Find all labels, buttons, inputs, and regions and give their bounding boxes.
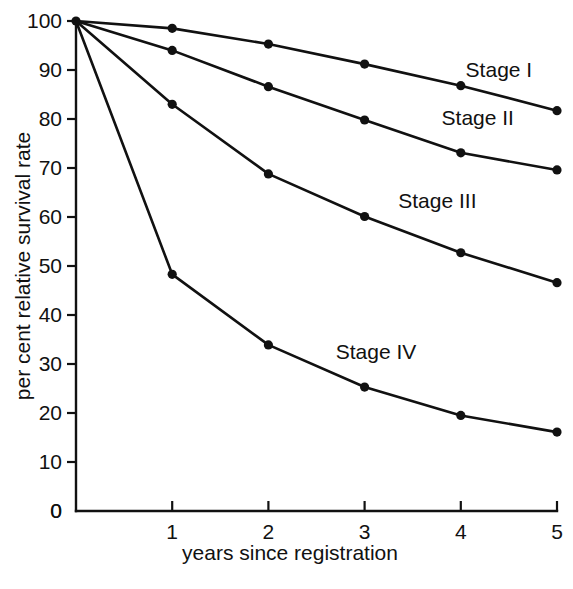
y-tick-label: 30 (39, 352, 62, 375)
origin-data-point (71, 16, 80, 25)
data-point (552, 278, 561, 287)
x-tick-label: 4 (455, 520, 467, 543)
y-axis-title: per cent relative survival rate (11, 132, 34, 400)
data-point (264, 169, 273, 178)
x-axis-title: years since registration (182, 541, 398, 564)
chart-canvas: 0102030405060708090100 012345 Stage ISta… (0, 0, 573, 589)
x-axis-ticks (172, 501, 557, 511)
y-tick-label: 20 (39, 401, 62, 424)
data-point (456, 148, 465, 157)
axes-group: 0102030405060708090100 012345 (27, 9, 563, 543)
data-point (264, 39, 273, 48)
y-tick-label: 90 (39, 58, 62, 81)
data-point (360, 60, 369, 69)
data-point (168, 24, 177, 33)
data-point (552, 428, 561, 437)
data-point (168, 100, 177, 109)
y-tick-label: 50 (39, 254, 62, 277)
y-tick-label: 70 (39, 156, 62, 179)
series-stage-ii (76, 21, 562, 175)
y-tick-label: 80 (39, 107, 62, 130)
series-label-stage-i: Stage I (466, 58, 533, 81)
y-tick-label: 10 (39, 450, 62, 473)
x-tick-label: 3 (359, 520, 371, 543)
data-point (168, 270, 177, 279)
x-tick-label: 2 (263, 520, 275, 543)
data-point (456, 248, 465, 257)
y-axis-ticks (67, 21, 76, 462)
data-point (456, 81, 465, 90)
data-point (360, 212, 369, 221)
x-tick-label: 5 (551, 520, 563, 543)
series-label-stage-ii: Stage II (442, 106, 514, 129)
x-axis-tick-labels: 012345 (50, 499, 563, 543)
data-point (360, 382, 369, 391)
data-point (264, 340, 273, 349)
data-point (360, 115, 369, 124)
x-tick-label: 1 (166, 520, 178, 543)
y-tick-label: 100 (27, 9, 62, 32)
data-point (264, 82, 273, 91)
x-tick-label: 0 (50, 499, 62, 522)
series-labels-group: Stage IStage IIStage IIIStage IV (336, 58, 532, 363)
series-label-stage-iv: Stage IV (336, 340, 417, 363)
survival-curve-chart: 0102030405060708090100 012345 Stage ISta… (0, 0, 573, 589)
y-tick-label: 40 (39, 303, 62, 326)
data-point (456, 411, 465, 420)
series-label-stage-iii: Stage III (398, 189, 476, 212)
y-tick-label: 60 (39, 205, 62, 228)
series-line (76, 21, 557, 170)
data-point (168, 46, 177, 55)
data-point (552, 106, 561, 115)
data-point (552, 165, 561, 174)
